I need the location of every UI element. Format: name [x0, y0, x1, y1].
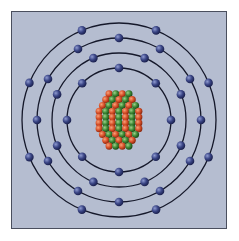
neutron — [112, 143, 119, 150]
electron — [115, 64, 124, 73]
electron — [89, 178, 98, 187]
electron — [152, 153, 161, 162]
electron — [74, 45, 83, 54]
electron — [177, 141, 186, 150]
electron — [78, 26, 87, 35]
electron — [74, 187, 83, 196]
electron — [115, 168, 124, 177]
electron — [186, 75, 195, 84]
electron — [115, 198, 124, 207]
electron — [89, 54, 98, 63]
electron — [33, 116, 42, 125]
nucleus — [96, 90, 143, 149]
electron — [44, 157, 53, 166]
proton — [106, 143, 113, 150]
electron — [78, 153, 87, 162]
electron — [78, 205, 87, 214]
electron — [152, 79, 161, 88]
electron — [53, 141, 62, 150]
electron — [204, 153, 213, 162]
electron — [53, 90, 62, 99]
atom-diagram — [0, 0, 239, 241]
electron — [156, 45, 165, 54]
electron — [177, 90, 186, 99]
electron — [152, 205, 161, 214]
electron — [78, 79, 87, 88]
electron — [152, 26, 161, 35]
electron — [167, 116, 176, 125]
electron — [156, 187, 165, 196]
electron — [204, 79, 213, 88]
proton — [119, 143, 126, 150]
electron — [63, 116, 72, 125]
electron — [140, 54, 149, 63]
electron — [115, 34, 124, 43]
electron — [140, 178, 149, 187]
electron — [197, 116, 206, 125]
electron — [186, 157, 195, 166]
electron — [25, 153, 34, 162]
neutron — [125, 143, 132, 150]
electron — [44, 75, 53, 84]
electron — [25, 79, 34, 88]
